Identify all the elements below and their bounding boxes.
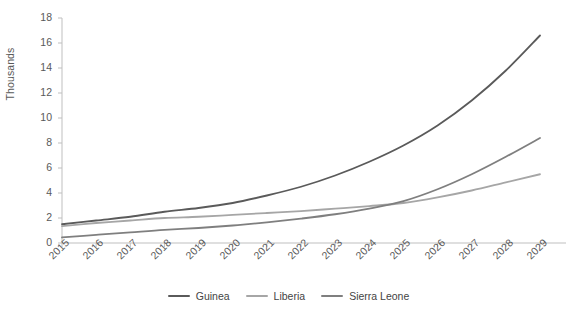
- legend-item[interactable]: Guinea: [168, 290, 230, 302]
- legend-item[interactable]: Sierra Leone: [321, 290, 409, 302]
- series-lines: [62, 36, 540, 238]
- legend-label: Guinea: [196, 290, 230, 302]
- legend-swatch-icon: [168, 295, 190, 297]
- axis-lines: [58, 18, 566, 247]
- plot-area: [0, 0, 577, 319]
- legend-swatch-icon: [321, 295, 343, 297]
- line-chart: Thousands 024681012141618 20152016201720…: [0, 0, 577, 319]
- legend-label: Sierra Leone: [349, 290, 409, 302]
- legend-label: Liberia: [274, 290, 306, 302]
- series-line: [62, 138, 540, 237]
- chart-legend: GuineaLiberiaSierra Leone: [0, 290, 577, 302]
- legend-item[interactable]: Liberia: [246, 290, 306, 302]
- legend-swatch-icon: [246, 295, 268, 297]
- series-line: [62, 36, 540, 225]
